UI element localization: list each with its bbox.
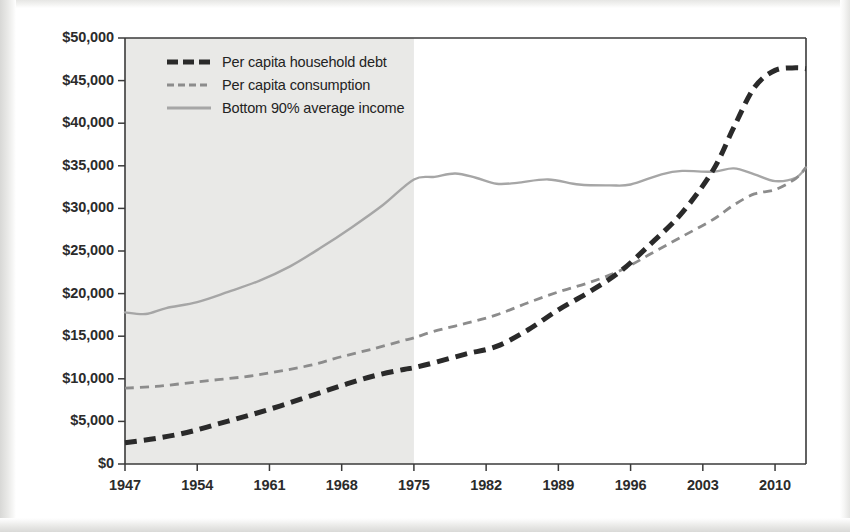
legend-item-consumption: Per capita consumption: [166, 73, 404, 96]
y-axis-ticks: [118, 38, 125, 464]
legend-label-debt: Per capita household debt: [222, 54, 387, 70]
x-tick-label: 1989: [523, 477, 593, 493]
x-tick-label: 1947: [90, 477, 160, 493]
y-tick-label: $25,000: [22, 242, 114, 258]
legend-swatch-solid-icon: [166, 101, 212, 115]
y-tick-label: $35,000: [22, 157, 114, 173]
y-tick-label: $45,000: [22, 72, 114, 88]
legend-swatch-dashed-thick-icon: [166, 55, 212, 69]
y-tick-label: $15,000: [22, 327, 114, 343]
x-tick-label: 1968: [307, 477, 377, 493]
chart-figure: $0$5,000$10,000$15,000$20,000$25,000$30,…: [0, 0, 850, 532]
y-tick-label: $10,000: [22, 370, 114, 386]
line-chart-plot: [0, 0, 850, 532]
y-tick-label: $30,000: [22, 199, 114, 215]
x-tick-label: 2010: [740, 477, 810, 493]
x-tick-label: 1996: [596, 477, 666, 493]
x-tick-label: 1982: [451, 477, 521, 493]
legend-item-income: Bottom 90% average income: [166, 96, 404, 119]
legend-item-debt: Per capita household debt: [166, 50, 404, 73]
y-tick-label: $20,000: [22, 285, 114, 301]
legend-label-consumption: Per capita consumption: [222, 77, 370, 93]
y-tick-label: $0: [22, 455, 114, 471]
chart-legend: Per capita household debt Per capita con…: [166, 50, 404, 119]
x-tick-label: 1975: [379, 477, 449, 493]
y-tick-label: $40,000: [22, 114, 114, 130]
x-tick-label: 1954: [162, 477, 232, 493]
x-tick-label: 1961: [234, 477, 304, 493]
x-axis-ticks: [125, 464, 775, 471]
x-tick-label: 2003: [668, 477, 738, 493]
y-tick-label: $50,000: [22, 29, 114, 45]
legend-label-income: Bottom 90% average income: [222, 100, 404, 116]
y-tick-label: $5,000: [22, 412, 114, 428]
legend-swatch-dashed-thin-icon: [166, 78, 212, 92]
